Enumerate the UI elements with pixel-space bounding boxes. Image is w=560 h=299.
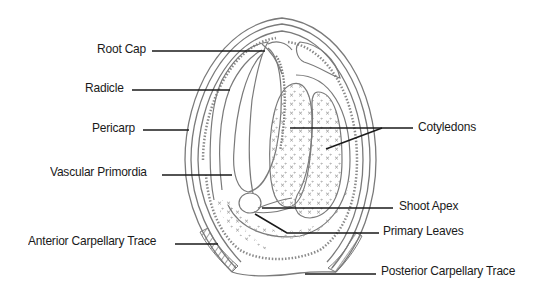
- label-radicle: Radicle: [85, 81, 124, 95]
- label-posterior-carpellary-trace: Posterior Carpellary Trace: [381, 264, 515, 278]
- label-vascular-primordia: Vascular Primordia: [50, 165, 147, 179]
- label-cotyledons: Cotyledons: [418, 120, 476, 134]
- label-root-cap: Root Cap: [97, 42, 146, 56]
- label-pericarp: Pericarp: [92, 121, 135, 135]
- label-primary-leaves: Primary Leaves: [383, 224, 464, 238]
- anterior-carpellary-trace-shape: [200, 228, 238, 272]
- label-shoot-apex: Shoot Apex: [399, 199, 458, 213]
- seed-section-diagram: × +: [0, 0, 560, 299]
- label-anterior-carpellary-trace: Anterior Carpellary Trace: [28, 234, 156, 248]
